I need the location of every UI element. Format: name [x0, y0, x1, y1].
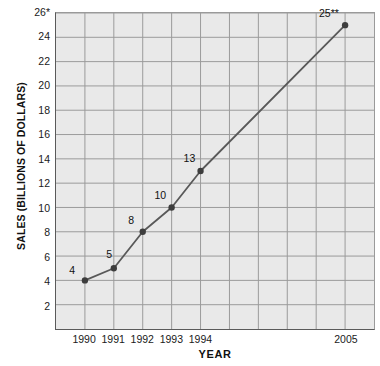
y-axis-tick-label: 12 — [10, 177, 50, 189]
y-axis-tick-label: 24 — [10, 30, 50, 42]
sales-by-year-line-chart: SALES (BILLIONS OF DOLLARS) 246810121416… — [0, 0, 380, 366]
data-point-label: 25** — [319, 7, 339, 19]
x-axis-title: YEAR — [55, 348, 375, 360]
y-axis-tick-label: 20 — [10, 79, 50, 91]
y-axis-tick-label: 22 — [10, 55, 50, 67]
plot-area — [55, 12, 375, 330]
y-axis-tick-label: 18 — [10, 104, 50, 116]
y-axis-tick-label: 8 — [10, 226, 50, 238]
y-axis-tick-label: 4 — [10, 275, 50, 287]
data-point-label: 8 — [128, 214, 134, 226]
data-point-label: 10 — [155, 189, 167, 201]
y-axis-tick-label: 16 — [10, 128, 50, 140]
data-point-label: 5 — [106, 248, 112, 260]
data-point-label: 13 — [184, 152, 196, 164]
y-axis-tick-label: 2 — [10, 300, 50, 312]
data-point-label: 4 — [69, 264, 75, 276]
sales-series — [56, 13, 374, 329]
x-axis-tick-label: 1994 — [170, 333, 230, 345]
y-axis-tick-label: 10 — [10, 202, 50, 214]
y-axis-tick-label: 6 — [10, 251, 50, 263]
y-axis-tick-label: 26* — [10, 6, 50, 18]
y-axis-tick-label: 14 — [10, 153, 50, 165]
x-axis-tick-label: 2005 — [316, 333, 376, 345]
